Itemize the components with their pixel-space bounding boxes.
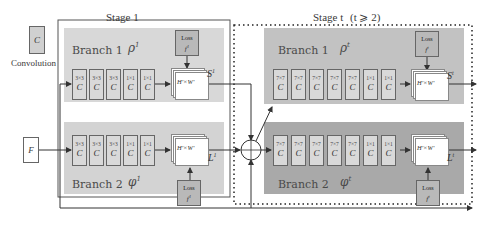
conv-block: 3×3C <box>89 69 104 100</box>
stage1-branch1-label: Branch 1 <box>72 44 123 57</box>
conv-block: 3×3C <box>72 69 87 100</box>
legend-conv-symbol: C <box>30 35 44 45</box>
conv-block: 3×3C <box>106 69 121 100</box>
conv-block: 1×1C <box>123 135 138 166</box>
input-f-box: F <box>23 137 39 163</box>
conv-block: 1×1C <box>363 135 378 166</box>
stageT-branch1-greek: ρt <box>340 41 350 55</box>
stageT-branch2-label: Branch 2 <box>278 178 329 191</box>
conv-block: 7×7C <box>309 135 324 166</box>
conv-block: 3×3C <box>89 135 104 166</box>
stageT-output-s: St <box>447 70 454 81</box>
stage1-output-s: S1 <box>207 68 215 79</box>
conv-block: 1×1C <box>140 135 155 166</box>
stage1-branch1-feature-map: H'×W' <box>171 68 211 100</box>
stage1-branch2-label: Branch 2 <box>72 178 123 191</box>
stage1-branch2-feature-map: H'×W' <box>171 134 211 166</box>
stageT-output-l: Lt <box>447 152 454 163</box>
conv-block: 3×3C <box>72 135 87 166</box>
conv-block: 3×3C <box>106 135 121 166</box>
conv-block: 1×1C <box>140 69 155 100</box>
conv-block: 1×1C <box>123 69 138 100</box>
stageT-branch1-loss: Loss ft <box>415 31 439 57</box>
legend-conv-box: C <box>29 26 45 54</box>
conv-block: 1×1C <box>381 135 396 166</box>
stageT-branch2-feature-map: H'×W' <box>411 134 451 166</box>
stage1-output-l: L1 <box>208 152 217 163</box>
stageT-branch2-greek: φt <box>340 175 351 189</box>
input-f-label: F <box>28 145 34 155</box>
conv-block: 7×7C <box>273 135 288 166</box>
stage1-branch1-greek: ρ1 <box>128 41 140 55</box>
conv-block: 1×1C <box>381 69 396 100</box>
conv-block: 7×7C <box>327 135 342 166</box>
conv-block: 7×7C <box>327 69 342 100</box>
stage1-branch2-greek: φ1 <box>128 175 141 189</box>
conv-block: 7×7C <box>273 69 288 100</box>
stageT-branch1-label: Branch 1 <box>278 44 329 57</box>
conv-block: 7×7C <box>345 135 360 166</box>
conv-block: 7×7C <box>291 135 306 166</box>
stageT-branch2-loss: Loss ft <box>416 180 440 206</box>
stage1-branch1-loss: Loss f1 <box>175 30 199 56</box>
stageT-title-text: Stage t <box>313 11 343 23</box>
connector-lines <box>0 0 480 225</box>
stageT-title: Stage t (t ⩾ 2) <box>313 11 380 24</box>
stageT-branch1-feature-map: H'×W' <box>411 69 451 101</box>
conv-block: 7×7C <box>345 69 360 100</box>
legend-conv-label: Convolution <box>11 58 56 68</box>
conv-block: 7×7C <box>291 69 306 100</box>
stage1-title: Stage 1 <box>106 11 139 23</box>
conv-block: 7×7C <box>309 69 324 100</box>
stageT-condition: (t ⩾ 2) <box>350 11 380 23</box>
stage1-branch2-loss: Loss f1 <box>177 180 201 206</box>
conv-block: 1×1C <box>363 69 378 100</box>
